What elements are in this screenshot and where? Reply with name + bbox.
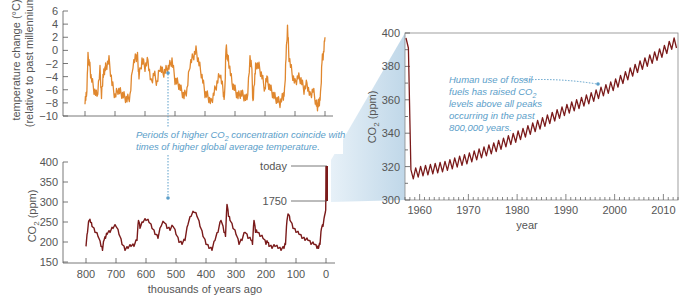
co2-recent-x-label: year: [516, 219, 538, 231]
temperature-x-axis: [63, 111, 333, 116]
x-tick-label: 400: [197, 268, 215, 280]
temperature-y-label: temperature change (°C): [10, 0, 22, 121]
y-tick-label: 0: [52, 44, 58, 56]
x-tick-label: 1970: [456, 204, 480, 216]
y-tick-label: 250: [40, 216, 58, 228]
y-tick-label: −2: [45, 58, 58, 70]
y-tick-label: 320: [382, 161, 400, 173]
y-tick-label: 340: [382, 127, 400, 139]
svg-text:Human use of fossil: Human use of fossil: [449, 74, 533, 85]
x-tick-label: 200: [257, 268, 275, 280]
y-tick-label: −10: [39, 110, 58, 122]
temperature-y-axis: 6420−2−4−6−8−10: [39, 5, 68, 122]
x-tick-label: 800: [77, 268, 95, 280]
y-tick-label: 6: [52, 5, 58, 17]
co2-x-label: thousands of years ago: [148, 283, 262, 295]
today-label: today: [260, 160, 287, 172]
y-tick-label: 380: [382, 60, 400, 72]
y-tick-label: 4: [52, 18, 58, 30]
y-tick-label: −4: [45, 71, 58, 83]
x-tick-label: 700: [107, 268, 125, 280]
x-tick-label: 500: [167, 268, 185, 280]
y-tick-label: 200: [40, 236, 58, 248]
center-annotation-line2: times of higher global average temperatu…: [136, 141, 320, 152]
temperature-y-label-sub: (relative to past millennium): [23, 0, 35, 127]
y-tick-label: 150: [40, 256, 58, 268]
co2-longterm-line: [86, 166, 326, 250]
x-tick-label: 100: [287, 268, 305, 280]
y-tick-label: 400: [40, 156, 58, 168]
y-tick-label: 2: [52, 31, 58, 43]
x-tick-label: 0: [323, 268, 329, 280]
x-tick-label: 600: [137, 268, 155, 280]
svg-text:levels above all peaks: levels above all peaks: [449, 98, 542, 109]
y-tick-label: −8: [45, 97, 58, 109]
svg-text:800,000 years.: 800,000 years.: [449, 122, 512, 133]
co2-x-axis: 8007006005004003002001000: [63, 258, 335, 280]
y-tick-label: 300: [382, 194, 400, 206]
temperature-line: [85, 25, 325, 111]
x-tick-label: 1980: [505, 204, 529, 216]
x-tick-label: 2000: [602, 204, 626, 216]
co2-recent-plot-frame: [405, 33, 678, 200]
1750-label: 1750: [263, 195, 287, 207]
chart-canvas: 6420−2−4−6−8−10 temperature change (°C) …: [0, 0, 688, 301]
y-tick-label: 300: [40, 196, 58, 208]
co2-recent-chart: 400380360340320300 196019701980199020002…: [366, 27, 678, 231]
y-tick-label: 360: [382, 94, 400, 106]
y-tick-label: 350: [40, 176, 58, 188]
svg-text:occurring in the past: occurring in the past: [449, 110, 535, 121]
x-tick-label: 1960: [407, 204, 431, 216]
x-tick-label: 300: [227, 268, 245, 280]
co2-y-axis: 400350300250200150: [40, 156, 68, 268]
x-tick-label: 2010: [651, 204, 675, 216]
y-tick-label: 400: [382, 27, 400, 39]
x-tick-label: 1990: [554, 204, 578, 216]
co2-longterm-chart: 400350300250200150 800700600500400300200…: [26, 156, 335, 295]
temperature-chart: 6420−2−4−6−8−10 temperature change (°C) …: [10, 0, 333, 127]
y-tick-label: −6: [45, 84, 58, 96]
